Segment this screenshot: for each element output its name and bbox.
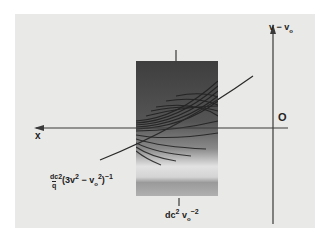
y-axis-label: v − vo [269,23,293,34]
origin-label: O [278,112,287,123]
curve-label: dc q 2(3v2 − vo2)−1 [50,172,113,190]
tick-label: dc2 vo−2 [165,208,199,222]
x-axis-label: x [35,131,41,141]
dispersion-curve [100,76,253,160]
